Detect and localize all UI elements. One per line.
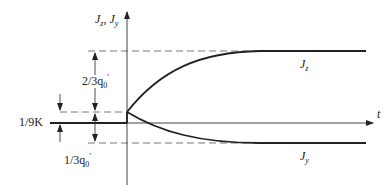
jy-curve xyxy=(127,112,366,143)
y-axis-label: Jz, Jy xyxy=(95,12,119,28)
jz-label: Jz xyxy=(300,57,309,73)
dim-small-label: 1/9K xyxy=(19,115,43,129)
dim-lower-label: 1/3q0′ xyxy=(64,151,91,169)
t-axis-label: t xyxy=(377,107,381,121)
jy-label: Jy xyxy=(300,149,309,165)
jz-curve xyxy=(127,51,366,112)
dim-upper-label: 2/3q0′ xyxy=(82,72,109,90)
relaxation-diagram: Jz, Jy t Jz Jy 2/3q0′ 1/3q0′ 1/9K xyxy=(0,0,386,190)
